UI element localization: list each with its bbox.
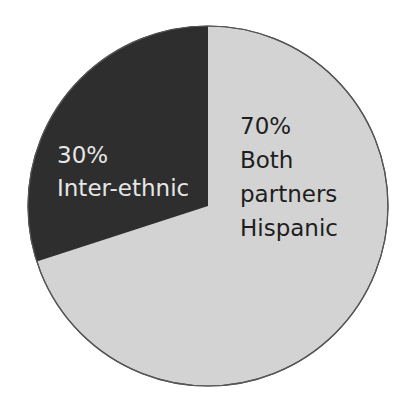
inter-ethnic-label: Inter-ethnic <box>57 175 189 201</box>
pie-chart: 30% Inter-ethnic 70% Both partners Hispa… <box>0 0 406 411</box>
hispanic-label-line3: Hispanic <box>240 215 338 241</box>
hispanic-percent: 70% <box>240 113 291 139</box>
hispanic-label-line1: Both <box>240 147 293 173</box>
hispanic-label-line2: partners <box>240 181 337 207</box>
inter-ethnic-percent: 30% <box>57 142 108 168</box>
